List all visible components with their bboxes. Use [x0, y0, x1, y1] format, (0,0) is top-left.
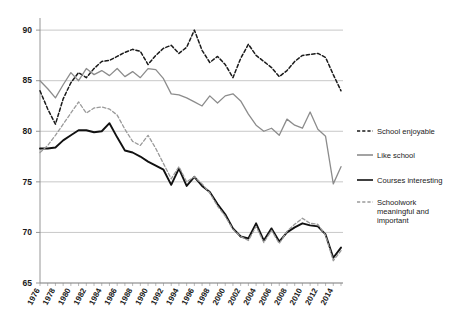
x-axis-tick: 2000: [211, 286, 228, 306]
x-axis-tick: 1988: [118, 286, 135, 306]
x-axis-tick: 1980: [56, 286, 73, 306]
x-axis-tick-label: 1996: [180, 286, 197, 306]
y-axis-tick-label: 90: [23, 25, 33, 35]
x-axis-tick-label: 1990: [134, 286, 151, 306]
series-line-school-enjoyable: [40, 30, 341, 124]
y-axis-tick-label: 65: [23, 278, 33, 288]
legend-label-3: Courses interesting: [377, 176, 442, 185]
legend-label-2: Like school: [377, 151, 415, 160]
x-axis-tick: 2008: [272, 286, 289, 306]
legend-label-4: Schoolwork: [377, 198, 416, 207]
y-axis-tick-label: 75: [23, 177, 33, 187]
x-axis-tick: 2002: [226, 286, 243, 306]
y-axis-tick-label: 80: [23, 126, 33, 136]
series-line-courses-interesting: [40, 123, 341, 258]
line-chart: 6570758085901976197819801982198419861988…: [0, 0, 450, 334]
legend-label-1: School enjoyable: [377, 127, 435, 136]
chart-screenshot: 6570758085901976197819801982198419861988…: [0, 0, 450, 334]
x-axis-tick: 2006: [257, 286, 274, 306]
x-axis-tick-label: 2008: [272, 286, 289, 306]
x-axis-tick-label: 1976: [25, 286, 42, 306]
x-axis-tick: 2010: [288, 286, 305, 306]
x-axis-tick: 1982: [72, 286, 89, 306]
x-axis-tick-label: 2010: [288, 286, 305, 306]
x-axis-tick-label: 1998: [195, 286, 212, 306]
x-axis-tick-label: 1984: [87, 286, 104, 306]
x-axis-tick: 1976: [25, 286, 42, 306]
x-axis-tick: 2014: [319, 286, 336, 306]
x-axis-tick: 1996: [180, 286, 197, 306]
x-axis-tick-label: 2004: [242, 286, 259, 306]
x-axis-tick: 1986: [103, 286, 120, 306]
x-axis-tick-label: 1982: [72, 286, 89, 306]
x-axis-tick-label: 2014: [319, 286, 336, 306]
x-axis-tick-label: 1980: [56, 286, 73, 306]
x-axis-tick-label: 1994: [164, 286, 181, 306]
x-axis-tick-label: 1992: [149, 286, 166, 306]
series-line-like-school: [40, 69, 341, 184]
x-axis-tick-label: 2006: [257, 286, 274, 306]
x-axis-tick: 1994: [164, 286, 181, 306]
x-axis-tick: 1984: [87, 286, 104, 306]
x-axis-tick-label: 2002: [226, 286, 243, 306]
legend-label-4: important: [377, 216, 410, 225]
y-axis-tick-label: 70: [23, 227, 33, 237]
x-axis-tick: 2004: [242, 286, 259, 306]
x-axis-tick-label: 1988: [118, 286, 135, 306]
x-axis-tick: 1978: [41, 286, 58, 306]
legend-label-4: meaningful and: [377, 207, 429, 216]
x-axis-tick: 1998: [195, 286, 212, 306]
x-axis-tick-label: 1986: [103, 286, 120, 306]
y-axis-tick-label: 85: [23, 75, 33, 85]
x-axis-tick: 1990: [134, 286, 151, 306]
x-axis-tick-label: 2012: [303, 286, 320, 306]
x-axis-tick-label: 1978: [41, 286, 58, 306]
x-axis-tick: 2012: [303, 286, 320, 306]
x-axis-tick: 1992: [149, 286, 166, 306]
x-axis-tick-label: 2000: [211, 286, 228, 306]
